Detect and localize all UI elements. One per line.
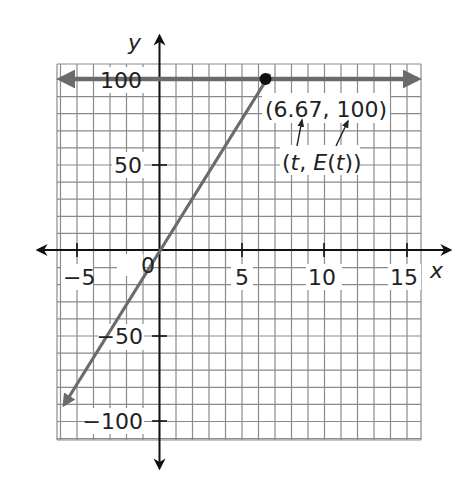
annotation-arrow-right bbox=[336, 121, 348, 146]
y-tick-50: 50 bbox=[114, 153, 142, 178]
generic-point-annotation: (t, E(t)) bbox=[282, 150, 362, 175]
x-tick-10: 10 bbox=[308, 265, 336, 290]
line-chart: 100 50 −50 −100 0 −5 5 10 15 x y (6.67, … bbox=[0, 0, 473, 486]
x-tick-15: 15 bbox=[390, 265, 418, 290]
y-tick-neg50: −50 bbox=[97, 324, 143, 349]
point-annotation: (6.67, 100) bbox=[265, 97, 387, 122]
y-tick-100: 100 bbox=[100, 68, 142, 93]
x-tick-0: 0 bbox=[141, 253, 155, 278]
x-tick-neg5: −5 bbox=[63, 265, 95, 290]
x-tick-5: 5 bbox=[235, 265, 249, 290]
intersection-point bbox=[260, 73, 272, 85]
y-axis-label: y bbox=[127, 30, 142, 55]
x-axis-label: x bbox=[429, 258, 444, 283]
annotation-arrow-left bbox=[297, 120, 302, 146]
rising-line bbox=[64, 74, 270, 405]
y-tick-neg100: −100 bbox=[83, 409, 143, 434]
